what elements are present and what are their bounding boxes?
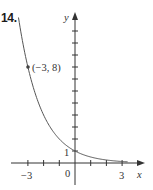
- point-marker: [26, 65, 30, 69]
- x-tick-label-3: 3: [119, 170, 124, 181]
- x-tick-label-neg3: −3: [21, 170, 32, 181]
- point-label: (−3, 8): [32, 62, 61, 74]
- origin-label: 0: [65, 168, 70, 179]
- y-tick-label-1: 1: [64, 147, 69, 158]
- x-axis-arrow-icon: [137, 160, 145, 166]
- y-axis-label: y: [63, 12, 69, 23]
- exponential-curve: [18, 17, 127, 161]
- exponential-graph: (−3, 8) y x −3 0 3 1: [0, 0, 153, 190]
- x-axis-label: x: [136, 169, 142, 180]
- y-axis-arrow-icon: [72, 12, 78, 20]
